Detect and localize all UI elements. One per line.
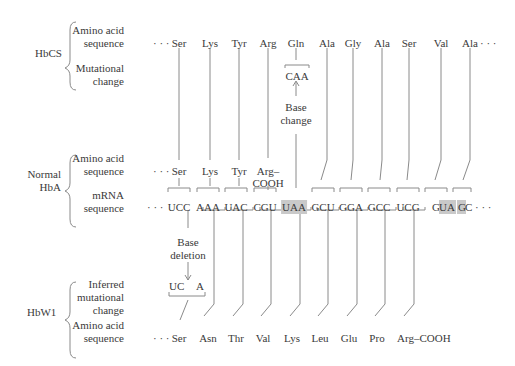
hbw1-aa: Thr bbox=[228, 332, 244, 344]
hbcs-aa: Tyr bbox=[231, 37, 246, 49]
hbw1-aa: Arg–COOH bbox=[397, 332, 451, 344]
hbcs-aa: Arg bbox=[260, 37, 277, 49]
codon-part-highlighted: UA bbox=[439, 200, 456, 214]
hbcs-label: HbCS bbox=[35, 47, 62, 59]
hba-aa-label-1: Amino acid bbox=[72, 152, 124, 164]
hbcs-aa: Ala bbox=[319, 37, 335, 49]
hbcs-aa: Ala bbox=[374, 37, 390, 49]
hba-mrna-label-1: mRNA bbox=[92, 189, 124, 201]
hbw1-sub1: mutational bbox=[77, 291, 124, 303]
hba-label-1: Normal bbox=[27, 168, 61, 180]
base-deletion-label-2: deletion bbox=[170, 249, 205, 261]
hbcs-aa: Lys bbox=[202, 37, 218, 49]
hbcs-aa-label-1: Amino acid bbox=[72, 24, 124, 36]
codon: GCU bbox=[310, 200, 335, 214]
hba-aa: COOH bbox=[252, 177, 283, 189]
hbcs-mut-label-2: change bbox=[93, 75, 124, 87]
codon: GGA bbox=[338, 200, 364, 214]
base-change-label-1: Base bbox=[285, 101, 306, 113]
base-change-label-2: change bbox=[280, 114, 311, 126]
base-deletion-label-1: Base bbox=[177, 236, 198, 248]
hbw1-sub1: Inferred bbox=[89, 278, 124, 290]
hbcs-aa: Val bbox=[434, 37, 449, 49]
codon-suffix: · · · bbox=[475, 201, 492, 213]
hbw1-sub2: Amino acid bbox=[72, 319, 124, 331]
hbcs-mutated-codon: CAA bbox=[285, 70, 308, 82]
codon: AAA bbox=[195, 200, 221, 214]
hbw1-sub1: change bbox=[93, 304, 124, 316]
hba-aa: Arg– bbox=[257, 165, 279, 177]
hbcs-mut-label-1: Mutational bbox=[76, 62, 124, 74]
hba-label-2: HbA bbox=[40, 181, 61, 193]
hba-prefix: · · · bbox=[153, 165, 170, 177]
hbw1-aa: Ser bbox=[172, 332, 187, 344]
brace-hba bbox=[65, 155, 76, 227]
hbw1-aa: Val bbox=[256, 332, 271, 344]
hbcs-aa: Gln bbox=[288, 37, 305, 49]
hbw1-aa: Asn bbox=[199, 332, 217, 344]
deleted-codon-left: UC bbox=[169, 280, 184, 292]
hbw1-label: HbW1 bbox=[27, 306, 56, 318]
hbcs-aa: Ser bbox=[402, 37, 417, 49]
hbcs-aa: Ala bbox=[462, 37, 478, 49]
codon: UCG bbox=[395, 200, 420, 214]
hba-mrna-label-2: sequence bbox=[84, 202, 124, 214]
hbw1-sub2: sequence bbox=[84, 332, 124, 344]
hbcs-suffix: · · · bbox=[480, 37, 497, 49]
codon: UCC bbox=[167, 200, 192, 214]
hbw1-aa: Glu bbox=[341, 332, 358, 344]
deleted-codon-right: A bbox=[196, 280, 204, 292]
codon-prefix: · · · bbox=[147, 201, 164, 213]
hbcs-aa: Ser bbox=[172, 37, 187, 49]
codon-stop-highlighted: UAA bbox=[281, 200, 307, 214]
hba-aa: Lys bbox=[202, 165, 218, 177]
hbcs-prefix: · · · bbox=[153, 37, 170, 49]
hbw1-aa: Pro bbox=[369, 332, 384, 344]
codon: GCC bbox=[367, 200, 392, 214]
hba-aa: Ser bbox=[172, 165, 187, 177]
codon: CGU bbox=[252, 200, 277, 214]
hbw1-prefix: · · · bbox=[153, 332, 170, 344]
hba-aa-label-2: sequence bbox=[84, 165, 124, 177]
hbw1-aa: Leu bbox=[311, 332, 328, 344]
hbcs-aa-label-2: sequence bbox=[84, 37, 124, 49]
hbw1-aa: Lys bbox=[284, 332, 300, 344]
hba-aa: Tyr bbox=[231, 165, 246, 177]
codon-part: C bbox=[465, 200, 473, 214]
codon: UAC bbox=[223, 200, 248, 214]
hbcs-aa: Gly bbox=[345, 37, 362, 49]
